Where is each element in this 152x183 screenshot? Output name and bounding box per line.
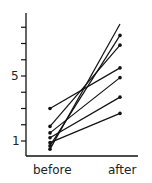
data-point <box>48 125 52 129</box>
data-point <box>48 107 52 111</box>
y-tick-label-5: 5 <box>11 69 19 83</box>
x-label-before: before <box>33 163 72 177</box>
data-point <box>48 131 52 135</box>
series-line <box>50 68 120 109</box>
data-point <box>118 112 122 116</box>
data-point <box>118 66 122 70</box>
y-ticks <box>21 27 26 141</box>
series-lines <box>48 24 122 151</box>
data-point <box>118 34 122 38</box>
data-point <box>118 76 122 80</box>
data-point <box>48 147 52 151</box>
y-tick-label-1: 1 <box>12 134 20 148</box>
data-point <box>48 136 52 140</box>
paired-line-chart: 1 5 before after <box>0 0 152 183</box>
x-label-after: after <box>108 163 136 177</box>
data-point <box>118 43 122 47</box>
data-point <box>118 95 122 99</box>
